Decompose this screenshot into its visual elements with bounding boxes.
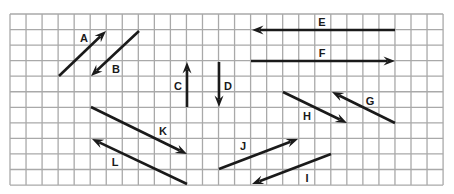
vector-label: F [319, 47, 326, 59]
vector-label: D [224, 80, 232, 92]
vector-label: A [80, 32, 88, 44]
vector-label: J [240, 140, 246, 152]
grid-lines [10, 14, 443, 185]
vectors: ABCDEFGHIJKL [59, 16, 395, 184]
vector-d: D [215, 62, 233, 107]
arrow-shaft [219, 142, 291, 169]
vector-label: I [305, 172, 308, 184]
vector-label: K [159, 125, 167, 137]
vector-f: F [251, 47, 395, 66]
vector-label: E [318, 16, 325, 28]
vector-label: G [366, 95, 375, 107]
diagram-canvas: ABCDEFGHIJKL [0, 0, 454, 194]
vector-label: L [112, 156, 119, 168]
vector-label: B [112, 63, 120, 75]
vector-label: H [303, 110, 311, 122]
vector-e: E [252, 16, 395, 35]
vector-c: C [174, 62, 191, 107]
vector-grid-diagram: ABCDEFGHIJKL [0, 0, 454, 194]
vector-k: K [91, 107, 187, 154]
vector-label: C [174, 80, 182, 92]
arrow-shaft [259, 154, 331, 181]
